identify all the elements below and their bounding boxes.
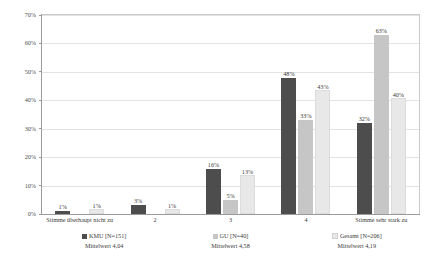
bar-value-label: 1% — [59, 203, 67, 210]
bar[interactable]: 33% — [298, 120, 313, 214]
legend-swatch-icon — [332, 233, 338, 239]
bar-value-label: 63% — [376, 27, 387, 34]
bar-value-label: 1% — [93, 202, 101, 209]
bar-groups: 1%1%3%1%16%5%13%48%33%43%32%63%40% — [42, 15, 419, 214]
bar-slot: 3% — [131, 15, 146, 214]
bar[interactable]: 16% — [206, 169, 221, 214]
bar-value-label: 48% — [283, 70, 294, 77]
bar[interactable]: 1% — [55, 211, 70, 214]
bar-group: 48%33%43% — [268, 15, 343, 214]
legend-mean: Mittelwert 4,04 — [41, 241, 167, 251]
bar[interactable]: 1% — [165, 209, 180, 214]
bar-slot: 32% — [357, 15, 372, 214]
bar[interactable]: 3% — [131, 205, 146, 214]
x-axis-line — [41, 214, 420, 215]
bar-slot: 43% — [315, 15, 330, 214]
bar-slot: 40% — [391, 15, 406, 214]
bar-chart: 70% 60% 50% 40% 30% 20% 10% 0% 1%1%3%1%1… — [0, 0, 432, 264]
legend-swatch-icon — [213, 234, 218, 239]
bar-value-label: 1% — [168, 202, 176, 209]
bar-slot: 16% — [206, 15, 221, 214]
bar[interactable]: 48% — [281, 78, 296, 214]
y-tick-label: 60% — [0, 39, 36, 46]
x-axis-labels: Stimme überhaupt nicht zu 2 3 4 Stimme s… — [42, 216, 419, 228]
bar[interactable]: 32% — [357, 123, 372, 214]
legend-mean: Mittelwert 4,19 — [294, 241, 420, 251]
bar-slot: 1% — [55, 15, 70, 214]
bar-slot: 5% — [223, 15, 238, 214]
bar-slot: 1% — [165, 15, 180, 214]
x-axis-label: 3 — [193, 216, 268, 228]
y-tick-label: 10% — [0, 182, 36, 189]
x-axis-label: 2 — [117, 216, 192, 228]
bar-group: 1%1% — [42, 15, 117, 214]
bar[interactable]: 13% — [240, 175, 255, 214]
chart-legend: KMU [N=151] Mittelwert 4,04 GU [N=40] Mi… — [41, 231, 420, 259]
bar-slot: 63% — [374, 15, 389, 214]
bar-value-label: 3% — [134, 197, 142, 204]
bar-slot: 13% — [240, 15, 255, 214]
bar-group: 32%63%40% — [344, 15, 419, 214]
bar-value-label: 16% — [208, 161, 219, 168]
y-tick-label: 70% — [0, 11, 36, 18]
bar-slot: 33% — [298, 15, 313, 214]
legend-mean: Mittelwert 4,58 — [167, 241, 293, 251]
bar-slot: 48% — [281, 15, 296, 214]
legend-label: KMU [N=151] — [89, 232, 126, 239]
bar-slot — [148, 15, 163, 214]
bar-value-label: 40% — [393, 91, 404, 98]
legend-swatch-icon — [82, 234, 87, 239]
bar-value-label: 5% — [226, 192, 234, 199]
bar-group: 16%5%13% — [193, 15, 268, 214]
x-axis-label: Stimme überhaupt nicht zu — [42, 216, 117, 228]
bar-value-label: 33% — [300, 112, 311, 119]
bar-group: 3%1% — [117, 15, 192, 214]
y-tick-label: 30% — [0, 125, 36, 132]
legend-item-gesamt: Gesamt [N=206] Mittelwert 4,19 — [294, 231, 420, 259]
y-tick-label: 40% — [0, 96, 36, 103]
legend-label: GU [N=40] — [220, 232, 249, 239]
y-tick-label: 0% — [0, 210, 36, 217]
legend-label: Gesamt [N=206] — [340, 232, 382, 239]
y-tick-label: 20% — [0, 153, 36, 160]
bar-slot — [72, 15, 87, 214]
bar-slot: 1% — [89, 15, 104, 214]
bar[interactable]: 43% — [315, 90, 330, 214]
bar-value-label: 32% — [359, 115, 370, 122]
x-axis-label: 4 — [268, 216, 343, 228]
bar-value-label: 43% — [317, 83, 328, 90]
bar[interactable]: 63% — [374, 35, 389, 214]
bar[interactable]: 1% — [89, 209, 104, 214]
legend-item-kmu: KMU [N=151] Mittelwert 4,04 — [41, 231, 167, 259]
legend-item-gu: GU [N=40] Mittelwert 4,58 — [167, 231, 293, 259]
bar-value-label: 13% — [242, 168, 253, 175]
bar[interactable]: 40% — [391, 98, 406, 214]
bar[interactable]: 5% — [223, 200, 238, 214]
x-axis-label: Stimme sehr stark zu — [344, 216, 419, 228]
y-tick-label: 50% — [0, 68, 36, 75]
